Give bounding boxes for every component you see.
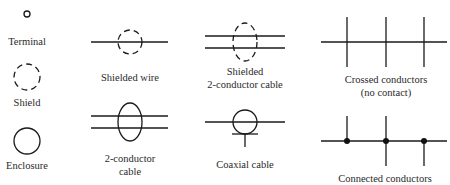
crossed-conductors-label-line2: (no contact) — [361, 87, 412, 99]
crossed-conductors-symbol: Crossed conductors (no contact) — [321, 17, 447, 99]
shielded-two-conductor-cable-label-line2: 2-conductor cable — [207, 79, 283, 90]
terminal-icon — [24, 11, 30, 17]
shielded-wire-label: Shielded wire — [101, 72, 159, 83]
two-conductor-cable-label-line1: 2-conductor — [105, 153, 156, 164]
terminal-symbol: Terminal — [8, 11, 46, 47]
shielded-two-conductor-cable-icon — [205, 23, 285, 61]
two-conductor-cable-icon — [91, 103, 168, 141]
crossed-conductors-icon — [321, 17, 447, 67]
enclosure-icon — [14, 128, 40, 154]
enclosure-symbol: Enclosure — [6, 128, 48, 171]
coaxial-cable-symbol: Coaxial cable — [205, 110, 285, 170]
crossed-conductors-label-line1: Crossed conductors — [345, 74, 428, 85]
shielded-two-conductor-cable-label-line1: Shielded — [227, 66, 264, 77]
connected-conductors-label: Connected conductors — [338, 173, 432, 184]
two-conductor-cable-label-line2: cable — [119, 166, 141, 177]
shield-icon — [14, 64, 40, 90]
connected-conductors-symbol: Connected conductors — [321, 116, 447, 184]
connected-conductors-icon — [321, 116, 447, 166]
coaxial-cable-label: Coaxial cable — [216, 159, 274, 170]
two-conductor-cable-symbol: 2-conductor cable — [91, 103, 168, 177]
terminal-label: Terminal — [8, 36, 46, 47]
shielded-wire-icon — [91, 30, 168, 54]
electrical-symbols-diagram: Terminal Shield Enclosure Shielded wire … — [0, 0, 450, 185]
shield-label: Shield — [14, 97, 42, 108]
coaxial-cable-icon — [205, 110, 285, 147]
shield-symbol: Shield — [14, 64, 42, 108]
shielded-two-conductor-cable-symbol: Shielded 2-conductor cable — [205, 23, 285, 90]
enclosure-label: Enclosure — [6, 160, 48, 171]
shielded-wire-symbol: Shielded wire — [91, 30, 168, 83]
